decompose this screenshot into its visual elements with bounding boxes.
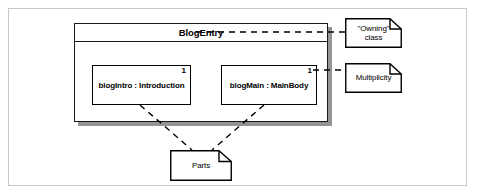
uml-composite-structure-diagram: BlogEntry 1 blogIntro : Introduction 1 b… (0, 0, 477, 196)
note-multiplicity[interactable]: Multiplicity (345, 63, 402, 93)
part-box-blogmain[interactable]: 1 blogMain : MainBody (221, 65, 317, 105)
note-owning-class[interactable]: "Owning" class (345, 18, 402, 48)
note-multiplicity-text: Multiplicity (356, 73, 392, 82)
note-parts-text: Parts (192, 161, 210, 170)
note-parts[interactable]: Parts (170, 150, 232, 181)
composite-class-name: BlogEntry (179, 27, 224, 38)
multiplicity-blogmain: 1 (308, 67, 312, 75)
note-owning-class-text: "Owning" class (357, 24, 389, 42)
composite-class-header: BlogEntry (75, 24, 327, 42)
part-label-blogintro: blogIntro : Introduction (93, 81, 190, 90)
multiplicity-blogintro: 1 (182, 67, 186, 75)
part-label-blogmain: blogMain : MainBody (222, 81, 316, 90)
part-box-blogintro[interactable]: 1 blogIntro : Introduction (92, 65, 191, 105)
